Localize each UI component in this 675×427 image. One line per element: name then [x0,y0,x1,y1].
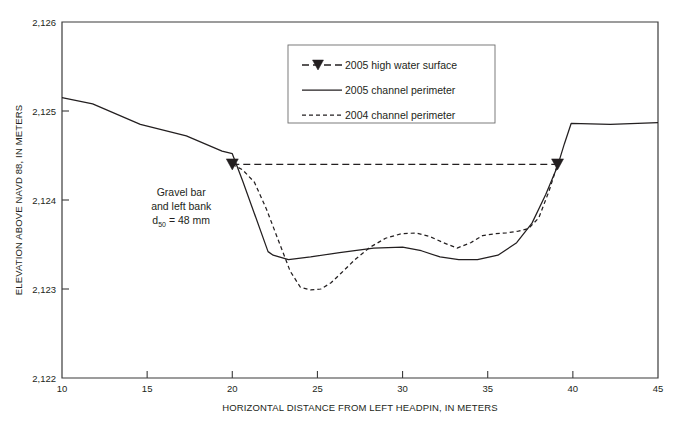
y-axis-title: ELEVATION ABOVE NAVD 88, IN METERS [13,105,24,295]
y-tick-label: 2,123 [32,284,56,295]
annotation-line: Gravel bar [157,186,207,198]
y-tick-label: 2,126 [32,17,56,28]
annotation-formula: d50 = 48 mm [152,214,210,228]
x-tick-label: 15 [142,383,153,394]
series-line [232,164,557,289]
x-tick-label: 20 [227,383,238,394]
chart-svg: 1015202530354045 2,1222,1232,1242,1252,1… [0,0,675,427]
y-tick-label: 2,125 [32,106,56,117]
x-tick-label: 10 [57,383,68,394]
legend-item-label: 2004 channel perimeter [345,109,456,121]
x-axis-ticks: 1015202530354045 [57,371,664,394]
x-tick-label: 30 [397,383,408,394]
legend: 2005 high water surface2005 channel peri… [288,45,495,123]
x-axis-title: HORIZONTAL DISTANCE FROM LEFT HEADPIN, I… [222,402,498,413]
y-axis-ticks: 2,1222,1232,1242,1252,126 [32,17,69,384]
x-tick-label: 35 [482,383,493,394]
legend-item-label: 2005 high water surface [345,59,457,71]
x-tick-label: 25 [312,383,323,394]
legend-item-label: 2005 channel perimeter [345,84,456,96]
x-tick-label: 40 [568,383,579,394]
annotation-line: and left bank [151,200,212,212]
x-tick-label: 45 [653,383,664,394]
cross-section-chart: 1015202530354045 2,1222,1232,1242,1252,1… [0,0,675,427]
y-tick-label: 2,122 [32,373,56,384]
data-series-layer [62,98,658,290]
annotation-layer: Gravel barand left bankd50 = 48 mm [151,186,212,228]
y-tick-label: 2,124 [32,195,56,206]
